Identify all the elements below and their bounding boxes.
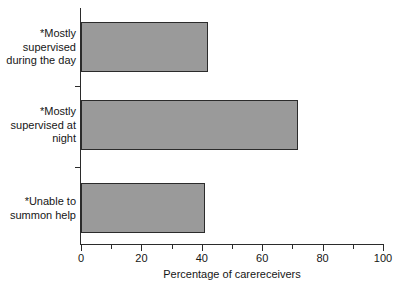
x-tick-label-20: 20 [121,252,161,264]
x-tick-label-0: 0 [61,252,101,264]
x-minor-tick-90 [353,245,354,249]
bar-chart-figure: *Mostly supervised during the day *Mostl… [0,0,407,291]
category-label-mostly-supervised-during-the-day: *Mostly supervised during the day [0,27,76,68]
category-label-mostly-supervised-at-night: *Mostly supervised at night [0,105,76,146]
x-tick-label-80: 80 [303,252,343,264]
y-axis-tick-1 [75,86,81,87]
x-tick-label-60: 60 [242,252,282,264]
x-tick-40 [202,245,203,251]
bar-mostly-supervised-at-night [81,100,298,150]
x-minor-tick-10 [111,245,112,249]
x-tick-60 [262,245,263,251]
x-tick-100 [383,245,384,251]
y-axis-tick-2 [75,167,81,168]
category-label-unable-to-summon-help: *Unable to summon help [0,195,76,222]
x-minor-tick-70 [292,245,293,249]
x-tick-80 [323,245,324,251]
x-axis-title: Percentage of carereceivers [80,268,384,280]
x-tick-20 [141,245,142,251]
bar-unable-to-summon-help [81,183,205,233]
x-minor-tick-50 [232,245,233,249]
x-minor-tick-30 [172,245,173,249]
x-tick-0 [81,245,82,251]
bar-mostly-supervised-during-the-day [81,22,208,72]
x-tick-label-100: 100 [363,252,403,264]
x-tick-label-40: 40 [182,252,222,264]
